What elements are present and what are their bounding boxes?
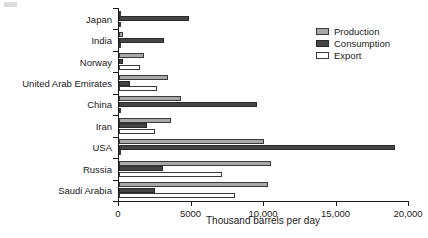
x-tick-mark: [263, 201, 264, 206]
y-tick-label: China: [87, 99, 112, 110]
bar-consumption: [119, 59, 123, 64]
legend-item-consumption: Consumption: [316, 37, 390, 49]
category-group: United Arab Emirates: [118, 72, 408, 93]
y-tick-label: Russia: [83, 163, 112, 174]
bar-export: [119, 65, 140, 70]
bar-production: [119, 53, 144, 58]
category-group: Russia: [118, 158, 408, 179]
bar-consumption: [119, 123, 147, 128]
category-group: USA: [118, 137, 408, 158]
y-tick-label: Norway: [80, 56, 112, 67]
bar-production: [119, 11, 121, 16]
bar-consumption: [119, 188, 155, 193]
legend-swatch-consumption: [316, 40, 329, 47]
bar-export: [119, 150, 121, 155]
y-tick-label: Japan: [86, 13, 112, 24]
bar-consumption: [119, 38, 164, 43]
x-tick-mark: [118, 201, 119, 206]
bar-export: [119, 193, 235, 198]
category-group: Saudi Arabia: [118, 180, 408, 201]
bar-export: [119, 129, 155, 134]
category-group: Iran: [118, 115, 408, 136]
chart-legend: ProductionConsumptionExport: [316, 25, 390, 61]
y-tick-label: India: [91, 35, 112, 46]
bar-production: [119, 139, 264, 144]
legend-label: Export: [334, 50, 361, 61]
legend-label: Production: [334, 26, 379, 37]
bar-consumption: [119, 145, 395, 150]
bar-export: [119, 22, 121, 27]
bar-production: [119, 182, 268, 187]
x-tick-mark: [408, 201, 409, 206]
bar-export: [119, 43, 121, 48]
bar-export: [119, 86, 157, 91]
legend-item-production: Production: [316, 25, 390, 37]
bar-production: [119, 161, 271, 166]
legend-item-export: Export: [316, 49, 390, 61]
bar-chart-figure: 0500010,00015,00020,000 JapanIndiaNorway…: [0, 0, 428, 238]
bar-consumption: [119, 166, 163, 171]
bar-consumption: [119, 102, 257, 107]
bar-production: [119, 32, 123, 37]
bar-production: [119, 75, 168, 80]
x-axis-title: Thousand barrels per day: [118, 215, 408, 226]
bar-consumption: [119, 16, 189, 21]
bar-export: [119, 108, 121, 113]
legend-swatch-export: [316, 52, 329, 59]
bar-export: [119, 172, 222, 177]
y-tick-label: Saudi Arabia: [58, 185, 112, 196]
legend-label: Consumption: [334, 38, 390, 49]
bar-consumption: [119, 81, 130, 86]
legend-swatch-production: [316, 28, 329, 35]
bar-production: [119, 96, 181, 101]
y-tick-mark: [113, 201, 118, 202]
x-tick-mark: [336, 201, 337, 206]
y-tick-label: Iran: [96, 120, 112, 131]
y-tick-label: USA: [92, 142, 112, 153]
category-group: China: [118, 94, 408, 115]
bar-production: [119, 118, 171, 123]
scan-artifact: [4, 2, 17, 7]
y-tick-label: United Arab Emirates: [22, 78, 112, 89]
x-tick-mark: [191, 201, 192, 206]
